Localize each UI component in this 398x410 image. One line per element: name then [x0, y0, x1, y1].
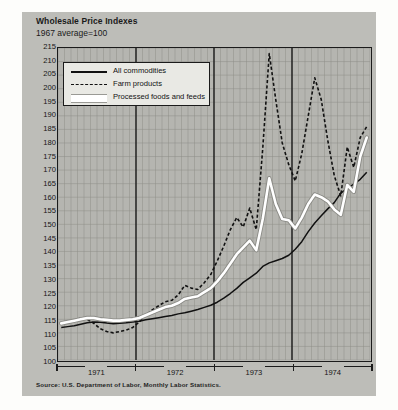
- y-axis-tick-label: 135: [26, 262, 56, 270]
- y-axis-tick-label: 165: [26, 180, 56, 188]
- y-axis-tick-label: 140: [26, 248, 56, 256]
- x-axis-rule: [293, 366, 321, 367]
- x-axis-rule: [57, 366, 85, 367]
- y-axis-tick-label: 160: [26, 194, 56, 202]
- y-axis-tick-label: 110: [26, 331, 56, 339]
- y-axis-tick-label: 100: [26, 358, 56, 366]
- legend-band-line-icon: [71, 94, 107, 103]
- y-axis-labels: 1001051101151201251301351401451501551601…: [26, 40, 56, 370]
- y-axis-tick-label: 195: [26, 98, 56, 106]
- y-axis-tick-label: 200: [26, 84, 56, 92]
- y-axis-tick-label: 190: [26, 111, 56, 119]
- y-axis-tick-label: 170: [26, 166, 56, 174]
- x-axis-year-label: 1973: [238, 368, 270, 377]
- legend-label: All commodities: [113, 66, 166, 75]
- page-title: Wholesale Price Indexes: [36, 16, 138, 26]
- y-axis-tick-label: 210: [26, 57, 56, 65]
- y-axis-tick-label: 205: [26, 70, 56, 78]
- y-axis-tick-label: 215: [26, 43, 56, 51]
- legend-item-farm-products: Farm products: [69, 78, 209, 91]
- x-axis-rule: [344, 366, 372, 367]
- legend-label: Processed foods and feeds: [113, 92, 205, 101]
- x-axis-year-label: 1972: [159, 368, 191, 377]
- legend-solid-line-icon: [71, 71, 107, 73]
- x-axis-rule: [136, 366, 164, 367]
- y-axis-tick-label: 145: [26, 235, 56, 243]
- x-axis: 1971197219731974: [57, 364, 372, 380]
- legend-label: Farm products: [113, 79, 162, 88]
- x-axis-rule: [107, 366, 135, 367]
- y-axis-tick-label: 125: [26, 290, 56, 298]
- legend-dashed-line-icon: [71, 84, 107, 85]
- chart-legend: All commodities Farm products Processed …: [63, 62, 210, 106]
- y-axis-tick-label: 115: [26, 317, 56, 325]
- y-axis-tick-label: 105: [26, 344, 56, 352]
- y-axis-tick-label: 185: [26, 125, 56, 133]
- y-axis-tick-label: 130: [26, 276, 56, 284]
- chart-subtitle: 1967 average=100: [36, 28, 107, 38]
- x-axis-rule: [265, 366, 293, 367]
- y-axis-tick-label: 120: [26, 303, 56, 311]
- x-axis-rule: [186, 366, 214, 367]
- y-axis-tick-label: 155: [26, 207, 56, 215]
- legend-item-processed-foods: Processed foods and feeds: [69, 91, 209, 104]
- y-axis-tick-label: 180: [26, 139, 56, 147]
- x-axis-rule: [215, 366, 243, 367]
- x-axis-year-label: 1971: [80, 368, 112, 377]
- x-axis-year-label: 1974: [317, 368, 349, 377]
- source-note: Source: U.S. Department of Labor, Monthl…: [36, 381, 221, 388]
- y-axis-tick-label: 150: [26, 221, 56, 229]
- y-axis-tick-label: 175: [26, 153, 56, 161]
- legend-item-all-commodities: All commodities: [69, 65, 209, 78]
